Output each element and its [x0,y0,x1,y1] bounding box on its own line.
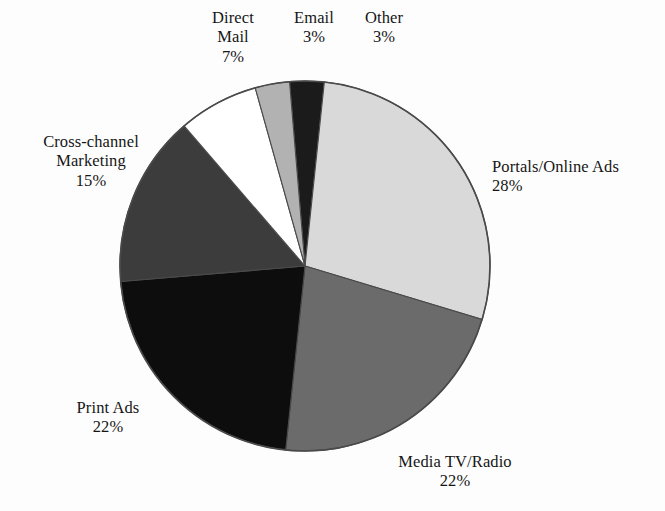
slice-label-other-name: Other [348,8,420,27]
slice-label-media-tv-radio-line1: Media TV/Radio [362,452,548,471]
slice-label-cross-channel-marketing-name: Cross-channel Marketing [8,132,174,171]
slice-label-direct-mail: Direct Mail 7% [186,8,280,66]
slice-label-direct-mail-line1: Direct [186,8,280,27]
slice-label-other-line1: Other [348,8,420,27]
slice-label-email-name: Email [278,8,350,27]
slice-value-other: 3% [348,27,420,46]
slice-value-media-tv-radio: 22% [362,471,548,490]
slice-label-cross-channel-marketing-line1: Cross-channel [8,132,174,151]
slice-label-direct-mail-line2: Mail [186,27,280,46]
pie-chart-page: Direct Mail 7% Email 3% Other 3% Portals… [0,0,665,511]
slice-value-email: 3% [278,27,350,46]
slice-label-portals-online-ads: Portals/Online Ads 28% [492,157,662,196]
slice-label-email: Email 3% [278,8,350,47]
slice-value-print-ads: 22% [42,417,174,436]
slice-value-direct-mail: 7% [186,47,280,66]
slice-value-cross-channel-marketing: 15% [8,171,174,190]
slice-label-email-line1: Email [278,8,350,27]
slice-label-cross-channel-marketing: Cross-channel Marketing 15% [8,132,174,190]
slice-label-portals-online-ads-name: Portals/Online Ads [492,157,662,176]
slice-label-print-ads-name: Print Ads [42,398,174,417]
slice-label-direct-mail-name: Direct Mail [186,8,280,47]
pie-slice-group [120,81,490,451]
slice-label-print-ads-line1: Print Ads [42,398,174,417]
slice-label-media-tv-radio: Media TV/Radio 22% [362,452,548,491]
slice-label-cross-channel-marketing-line2: Marketing [8,151,174,170]
slice-label-other: Other 3% [348,8,420,47]
slice-label-media-tv-radio-name: Media TV/Radio [362,452,548,471]
slice-label-portals-online-ads-line1: Portals/Online Ads [492,157,662,176]
slice-label-print-ads: Print Ads 22% [42,398,174,437]
slice-value-portals-online-ads: 28% [492,176,662,195]
